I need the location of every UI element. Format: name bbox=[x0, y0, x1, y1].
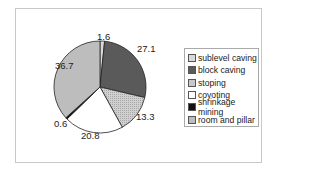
legend-item-stoping: stoping bbox=[188, 77, 258, 89]
legend-label: sublevel caving bbox=[198, 53, 257, 63]
legend-label: stoping bbox=[198, 78, 226, 88]
legend-swatch bbox=[188, 116, 196, 124]
data-label-block-caving: 27.1 bbox=[137, 44, 156, 54]
legend-item-sublevel-caving: sublevel caving bbox=[188, 52, 258, 64]
data-label-stoping: 13.3 bbox=[136, 112, 155, 122]
chart-legend: sublevel caving block caving stoping coy… bbox=[184, 48, 259, 127]
legend-item-room-and-pillar: room and pillar bbox=[188, 113, 258, 125]
legend-item-block-caving: block caving bbox=[188, 64, 258, 76]
legend-label: block caving bbox=[198, 65, 245, 75]
data-label-sublevel-caving: 1.6 bbox=[97, 32, 110, 42]
legend-swatch bbox=[188, 103, 196, 111]
legend-label: room and pillar bbox=[198, 115, 255, 125]
legend-swatch bbox=[188, 79, 196, 87]
legend-swatch bbox=[188, 66, 196, 74]
data-label-room-and-pillar: 36.7 bbox=[55, 61, 74, 71]
data-label-shrinkage-mining: 0.6 bbox=[54, 119, 67, 129]
legend-swatch bbox=[188, 54, 196, 62]
data-label-coyoting: 20.8 bbox=[81, 131, 100, 141]
legend-swatch bbox=[188, 91, 196, 99]
legend-item-shrinkage-mining: shrinkage mining bbox=[188, 101, 258, 113]
